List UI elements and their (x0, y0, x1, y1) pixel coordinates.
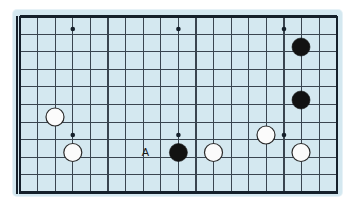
go-board-diagram: A (0, 0, 355, 205)
label-layer: A (0, 0, 355, 205)
point-label-a: A (142, 147, 149, 158)
